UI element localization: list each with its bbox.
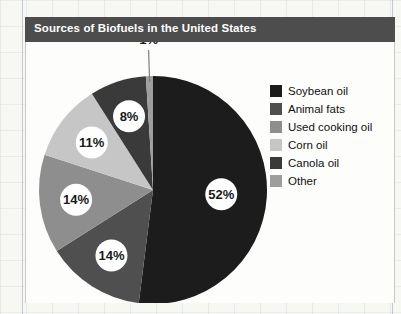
legend-swatch-icon	[270, 139, 282, 151]
legend-swatch-icon	[270, 121, 282, 133]
chart-title-bar: Sources of Biofuels in the United States	[25, 17, 395, 42]
legend-item-label: Soybean oil	[288, 85, 348, 97]
pie-data-label-canola-oil: 8%	[120, 109, 139, 124]
legend-item-corn-oil[interactable]: Corn oil	[270, 136, 392, 154]
legend-swatch-icon	[270, 85, 282, 97]
legend-swatch-icon	[270, 175, 282, 187]
chart-legend: Soybean oilAnimal fatsUsed cooking oilCo…	[270, 82, 392, 190]
legend-swatch-icon	[270, 157, 282, 169]
chart-screenshot: Sources of Biofuels in the United States…	[0, 0, 401, 314]
pie-data-label-other: 1%	[139, 42, 158, 47]
legend-item-soybean-oil[interactable]: Soybean oil	[270, 82, 392, 100]
legend-item-label: Canola oil	[288, 157, 339, 169]
legend-item-used-cooking-oil[interactable]: Used cooking oil	[270, 118, 392, 136]
pie-slice-soybean-oil[interactable]	[139, 76, 267, 303]
legend-item-animal-fats[interactable]: Animal fats	[270, 100, 392, 118]
pie-data-label-soybean-oil: 52%	[208, 187, 234, 202]
chart-plot-panel: 52%14%14%11%8%1% Soybean oilAnimal fatsU…	[25, 42, 395, 303]
legend-item-other[interactable]: Other	[270, 172, 392, 190]
legend-swatch-icon	[270, 103, 282, 115]
paper-margin-rule-left	[22, 0, 23, 314]
legend-item-canola-oil[interactable]: Canola oil	[270, 154, 392, 172]
chart-title: Sources of Biofuels in the United States	[34, 22, 257, 34]
legend-item-label: Animal fats	[288, 103, 345, 115]
pie-data-label-animal-fats: 14%	[98, 248, 124, 263]
legend-item-label: Corn oil	[288, 139, 328, 151]
pie-data-label-corn-oil: 11%	[79, 135, 105, 150]
pie-data-label-used-cooking-oil: 14%	[63, 192, 89, 207]
legend-item-label: Used cooking oil	[288, 121, 372, 133]
legend-item-label: Other	[288, 175, 317, 187]
pie-chart-card: Sources of Biofuels in the United States…	[25, 17, 395, 303]
